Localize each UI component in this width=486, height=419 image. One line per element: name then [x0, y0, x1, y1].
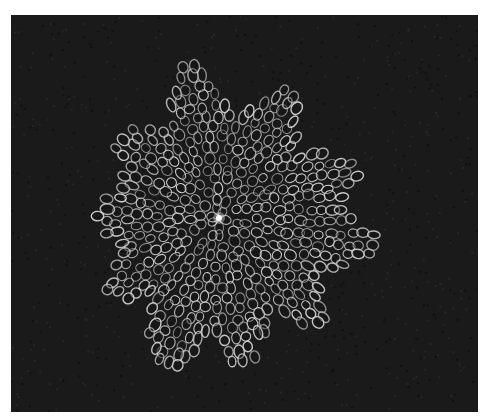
cell-colony-graphic: [11, 15, 478, 412]
colony-photograph: [11, 15, 478, 412]
photo-frame: [0, 0, 486, 419]
colony-center-highlight: [216, 215, 222, 221]
